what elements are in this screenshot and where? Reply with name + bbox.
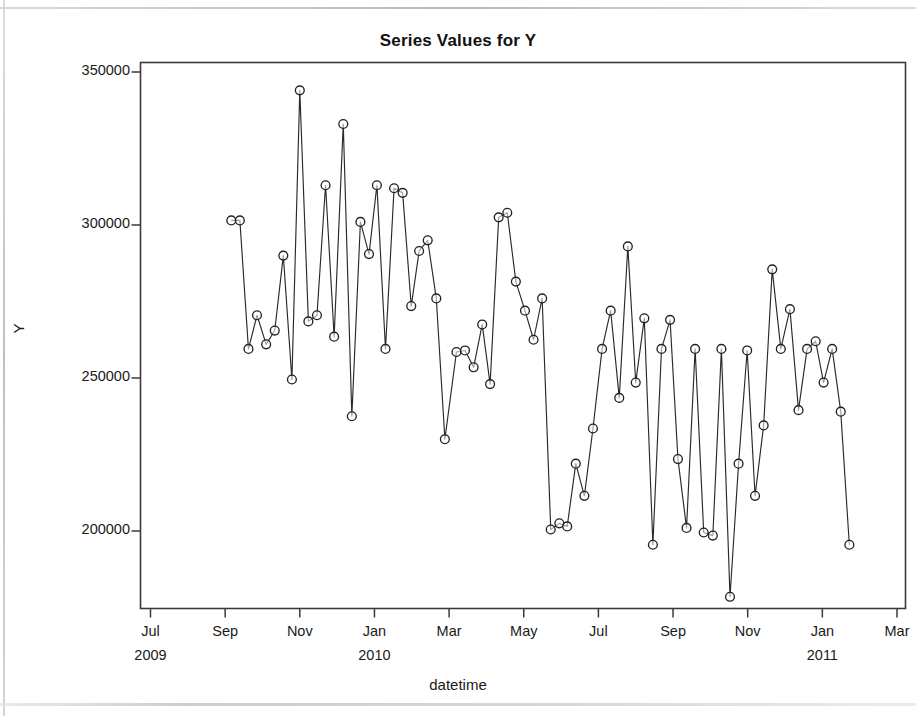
data-point-marker (811, 337, 820, 346)
x-tick-year-label: 2011 (782, 647, 862, 663)
data-point-marker (295, 86, 304, 95)
data-point-marker (819, 378, 828, 387)
data-point-marker (373, 181, 382, 190)
data-point-marker (845, 540, 854, 549)
data-point-marker (407, 302, 416, 311)
x-tick-label: Jul (558, 623, 638, 639)
data-point-marker (794, 406, 803, 415)
series-line (231, 90, 849, 596)
data-point-marker (674, 455, 683, 464)
data-point-marker (529, 335, 538, 344)
data-point-marker (279, 251, 288, 260)
data-point-marker (691, 345, 700, 354)
data-point-marker (717, 345, 726, 354)
data-point-marker (699, 528, 708, 537)
data-point-marker (538, 294, 547, 303)
data-point-marker (321, 181, 330, 190)
data-point-marker (521, 306, 530, 315)
x-tick-label: Nov (260, 623, 340, 639)
data-point-marker (235, 216, 244, 225)
x-tick-label: May (484, 623, 564, 639)
data-point-marker (631, 378, 640, 387)
data-point-marker (828, 345, 837, 354)
x-tick-label: Sep (185, 623, 265, 639)
data-point-marker (356, 218, 365, 227)
data-point-marker (606, 306, 615, 315)
x-tick-label: Mar (857, 623, 916, 639)
y-tick-label: 350000 (45, 62, 130, 78)
data-point-marker (640, 314, 649, 323)
x-tick-year-label: 2009 (111, 647, 191, 663)
data-point-marker (469, 363, 478, 372)
data-point-marker (347, 412, 356, 421)
data-point-marker (589, 424, 598, 433)
data-point-marker (365, 250, 374, 259)
x-axis-title: datetime (0, 676, 916, 693)
data-point-marker (270, 326, 279, 335)
data-point-marker (478, 320, 487, 329)
data-point-marker (503, 208, 512, 217)
data-point-marker (288, 375, 297, 384)
data-point-marker (708, 531, 717, 540)
data-point-marker (836, 407, 845, 416)
x-tick-label: Mar (409, 623, 489, 639)
data-point-marker (623, 242, 632, 251)
data-point-marker (227, 216, 236, 225)
data-point-marker (461, 346, 470, 355)
x-tick-label: Jan (334, 623, 414, 639)
data-point-marker (648, 540, 657, 549)
data-point-marker (313, 311, 322, 320)
data-point-marker (511, 277, 520, 286)
data-point-marker (615, 393, 624, 402)
data-point-marker (598, 345, 607, 354)
data-point-marker (262, 340, 271, 349)
data-point-marker (726, 592, 735, 601)
x-tick-label: Jul (111, 623, 191, 639)
data-point-marker (776, 345, 785, 354)
y-tick-label: 200000 (45, 521, 130, 537)
data-point-marker (759, 421, 768, 430)
data-point-marker (666, 315, 675, 324)
x-tick-label: Nov (708, 623, 788, 639)
data-point-marker (452, 348, 461, 357)
series-markers (227, 86, 854, 601)
data-point-marker (415, 247, 424, 256)
data-point-marker (253, 311, 262, 320)
data-point-marker (381, 345, 390, 354)
x-tick-label: Sep (633, 623, 713, 639)
y-axis-ticks (132, 72, 141, 531)
data-point-marker (494, 213, 503, 222)
data-point-marker (432, 294, 441, 303)
x-tick-year-label: 2010 (334, 647, 414, 663)
plot-frame (141, 63, 906, 609)
data-point-marker (339, 120, 348, 129)
data-point-marker (682, 524, 691, 533)
data-point-marker (751, 491, 760, 500)
data-point-marker (244, 345, 253, 354)
data-series (227, 86, 854, 601)
data-point-marker (304, 317, 313, 326)
data-point-marker (786, 305, 795, 314)
y-tick-label: 300000 (45, 215, 130, 231)
data-point-marker (440, 435, 449, 444)
data-point-marker (398, 188, 407, 197)
data-point-marker (330, 332, 339, 341)
data-point-marker (571, 459, 580, 468)
data-point-marker (803, 345, 812, 354)
chart-page: Series Values for Y 20000025000030000035… (0, 0, 916, 716)
data-point-marker (743, 346, 752, 355)
data-point-marker (563, 522, 572, 531)
x-axis-ticks (151, 609, 898, 618)
data-point-marker (580, 491, 589, 500)
data-point-marker (390, 184, 399, 193)
data-point-marker (546, 525, 555, 534)
y-tick-label: 250000 (45, 368, 130, 384)
y-axis-title: Y (10, 299, 27, 359)
data-point-marker (734, 459, 743, 468)
series-plot (0, 0, 916, 716)
data-point-marker (657, 345, 666, 354)
data-point-marker (423, 236, 432, 245)
data-point-marker (768, 265, 777, 274)
x-tick-label: Jan (782, 623, 862, 639)
data-point-marker (486, 380, 495, 389)
